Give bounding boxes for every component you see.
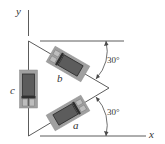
- gauge-b-label: b: [57, 73, 63, 84]
- gauge-a-label: a: [73, 120, 79, 131]
- diagram-canvas: [0, 0, 165, 144]
- angle-label-lower: 30°: [107, 108, 120, 117]
- strain-gauge-a: [46, 95, 90, 131]
- arrowhead-icon: [104, 131, 109, 136]
- gauge-c-label: c: [10, 85, 15, 96]
- strain-gauge-c: [20, 70, 38, 108]
- strain-gauge-b: [46, 46, 90, 82]
- rosette-diagram: y x c b a 30° 30°: [0, 0, 165, 144]
- angle-label-upper: 30°: [107, 56, 120, 65]
- y-axis-label: y: [16, 6, 21, 17]
- arrowhead-icon: [104, 41, 109, 46]
- x-axis-label: x: [149, 129, 154, 140]
